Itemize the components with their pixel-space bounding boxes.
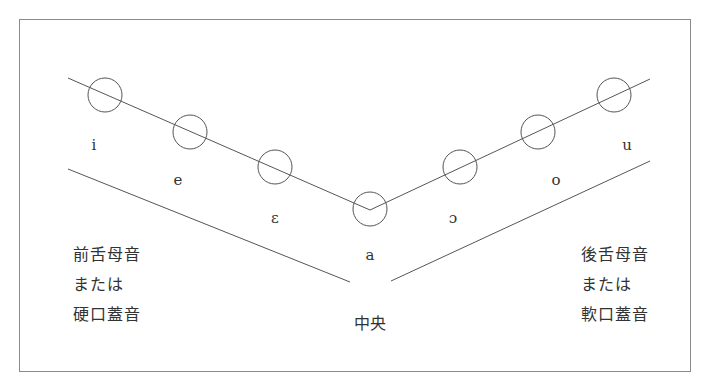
vowel-label-u: u: [622, 136, 632, 154]
back-vowel-label: 後舌母音 または 軟口蓋音: [581, 240, 649, 330]
vowel-label-a: a: [366, 246, 375, 264]
front-vowel-label: 前舌母音 または 硬口蓋音: [73, 240, 141, 330]
vowel-label-o: o: [551, 171, 560, 189]
vowel-label-i: i: [92, 136, 97, 154]
vowel-circle-o: [521, 115, 555, 149]
vowel-label-open-o: ɔ: [449, 209, 457, 227]
vowel-circle-u: [597, 78, 631, 112]
upper-right-line: [370, 79, 650, 210]
vowel-label-e: e: [174, 171, 183, 189]
front-vowel-line-2: または: [73, 270, 141, 300]
vowel-circle-open-e: [258, 150, 292, 184]
vowel-circle-i: [88, 78, 122, 112]
front-vowel-line-3: 硬口蓋音: [73, 300, 141, 330]
upper-left-line: [68, 78, 370, 210]
front-vowel-line-1: 前舌母音: [73, 240, 141, 270]
back-vowel-line-1: 後舌母音: [581, 240, 649, 270]
vowel-circle-e: [173, 115, 207, 149]
back-vowel-line-3: 軟口蓋音: [581, 300, 649, 330]
vowel-circle-open-o: [443, 150, 477, 184]
back-vowel-line-2: または: [581, 270, 649, 300]
vowel-label-open-e: ɛ: [271, 209, 279, 227]
center-label: 中央: [354, 310, 386, 334]
vowel-circle-a: [353, 192, 387, 226]
